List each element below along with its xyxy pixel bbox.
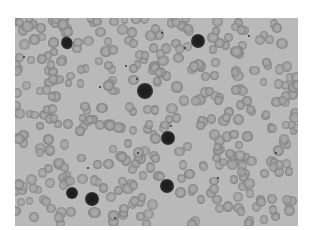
red-blood-cell (260, 169, 270, 178)
platelet (275, 152, 277, 154)
red-blood-cell (95, 120, 105, 130)
red-blood-cell (237, 207, 245, 216)
red-blood-cell (147, 199, 158, 210)
red-blood-cell (276, 38, 288, 49)
red-blood-cell (26, 197, 34, 205)
red-blood-cell (46, 204, 56, 214)
red-blood-cell (284, 205, 295, 216)
red-blood-cell (15, 88, 22, 98)
red-blood-cell (54, 212, 64, 223)
red-blood-cell (215, 204, 224, 213)
red-blood-cell (199, 162, 208, 171)
red-blood-cell (188, 184, 198, 195)
red-blood-cell (151, 154, 160, 163)
red-blood-cell (268, 124, 277, 133)
red-blood-cell (256, 197, 266, 207)
red-blood-cell (210, 71, 219, 81)
red-blood-cell (129, 181, 138, 190)
red-blood-cell (77, 79, 84, 87)
red-blood-cell (60, 139, 69, 149)
red-blood-cell (146, 162, 155, 173)
red-blood-cell (230, 175, 238, 183)
red-blood-cell (26, 174, 37, 185)
red-blood-cell (103, 80, 114, 91)
red-blood-cell (242, 131, 254, 142)
red-blood-cell (60, 163, 69, 171)
red-blood-cell (36, 122, 44, 131)
red-blood-cell (56, 57, 67, 67)
platelet (248, 35, 250, 37)
red-blood-cell (267, 194, 277, 204)
red-blood-cell (96, 103, 107, 113)
red-blood-cell (63, 119, 73, 128)
red-blood-cell (30, 111, 39, 119)
red-blood-cell (142, 219, 151, 226)
red-blood-cell (231, 85, 241, 95)
red-blood-cell (128, 165, 137, 174)
red-blood-cell (233, 192, 242, 203)
red-blood-cell (47, 60, 56, 70)
red-blood-cell (88, 207, 100, 218)
red-blood-cell (171, 18, 181, 27)
red-blood-cell (173, 53, 184, 63)
red-blood-cell (183, 142, 192, 151)
red-blood-cell (222, 113, 231, 121)
red-blood-cell (179, 95, 189, 106)
red-blood-cell (65, 176, 75, 186)
red-blood-cell (141, 51, 149, 59)
nucleated-cell (85, 192, 99, 206)
red-blood-cell (75, 126, 85, 136)
red-blood-cell (282, 195, 292, 205)
red-blood-cell (224, 33, 233, 42)
red-blood-cell (237, 167, 246, 177)
red-blood-cell (279, 134, 288, 145)
red-blood-cell (231, 68, 239, 76)
red-blood-cell (214, 143, 222, 151)
red-blood-cell (293, 124, 298, 133)
red-blood-cell (92, 18, 102, 26)
platelet (170, 125, 172, 127)
red-blood-cell (233, 114, 244, 125)
nucleated-cell (191, 34, 205, 48)
red-blood-cell (27, 56, 35, 64)
red-blood-cell (124, 139, 132, 148)
red-blood-cell (246, 189, 254, 197)
red-blood-cell (93, 160, 102, 170)
red-blood-cell (260, 215, 269, 224)
red-blood-cell (143, 209, 154, 219)
red-blood-cell (292, 80, 298, 91)
red-blood-cell (175, 187, 186, 198)
red-blood-cell (22, 81, 31, 91)
red-blood-cell (229, 130, 239, 139)
red-blood-cell (242, 96, 252, 106)
red-blood-cell (66, 207, 76, 217)
platelet (217, 177, 219, 179)
red-blood-cell (244, 219, 253, 226)
red-blood-cell (63, 27, 72, 37)
red-blood-cell (160, 121, 170, 130)
red-blood-cell (106, 192, 115, 202)
red-blood-cell (108, 210, 119, 221)
red-blood-cell (255, 35, 264, 45)
platelet (99, 86, 101, 88)
red-blood-cell (50, 48, 58, 56)
red-blood-cell (86, 115, 94, 124)
red-blood-cell (249, 66, 260, 76)
red-blood-cell (187, 219, 197, 226)
red-blood-cell (108, 45, 118, 55)
red-blood-cell (189, 61, 199, 72)
red-blood-cell (181, 18, 190, 23)
red-blood-cell (117, 152, 126, 163)
red-blood-cell (29, 184, 39, 193)
red-blood-cell (21, 21, 33, 32)
red-blood-cell (265, 35, 274, 44)
red-blood-cell (196, 121, 205, 130)
red-blood-cell (212, 27, 220, 35)
red-blood-cell (230, 46, 242, 57)
red-blood-cell (65, 79, 73, 87)
red-blood-cell (156, 49, 165, 59)
red-blood-cell (15, 108, 25, 119)
red-blood-cell (212, 18, 223, 27)
red-blood-cell (131, 18, 141, 24)
red-blood-cell (77, 154, 86, 163)
